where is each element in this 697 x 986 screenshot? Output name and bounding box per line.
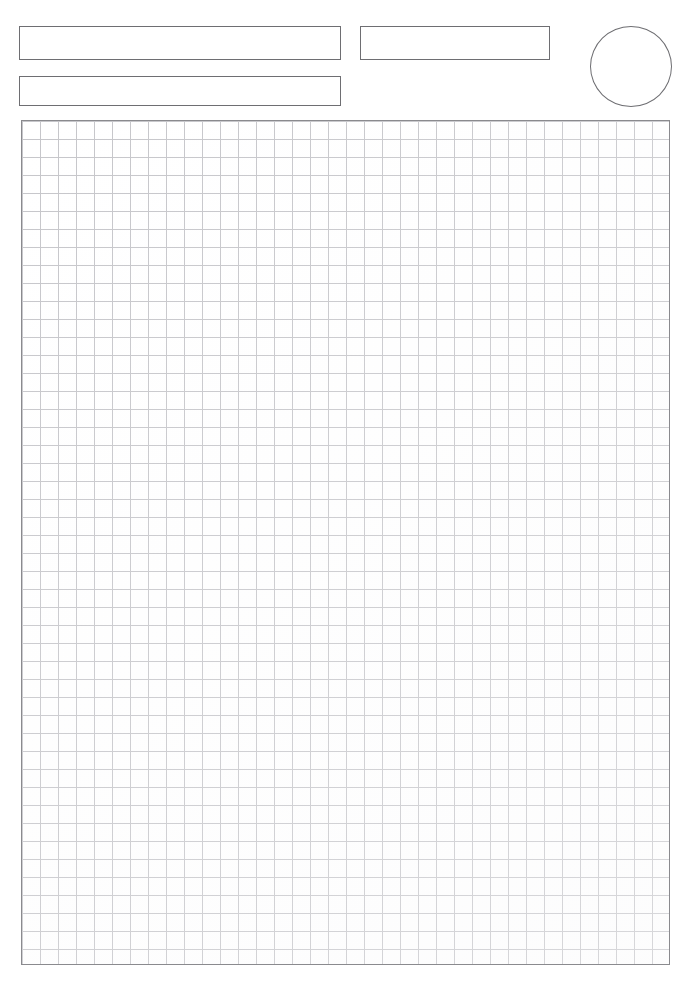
- document-page: [0, 0, 697, 986]
- subtitle-field-value: [20, 77, 340, 85]
- meta-field-value: [361, 27, 549, 35]
- stamp-ellipse-icon[interactable]: [590, 26, 672, 107]
- grid-sheet[interactable]: [21, 120, 670, 965]
- meta-field[interactable]: [360, 26, 550, 60]
- title-field[interactable]: [19, 26, 341, 60]
- title-field-value: [20, 27, 340, 35]
- paper-texture-overlay: [22, 121, 669, 964]
- subtitle-field[interactable]: [19, 76, 341, 106]
